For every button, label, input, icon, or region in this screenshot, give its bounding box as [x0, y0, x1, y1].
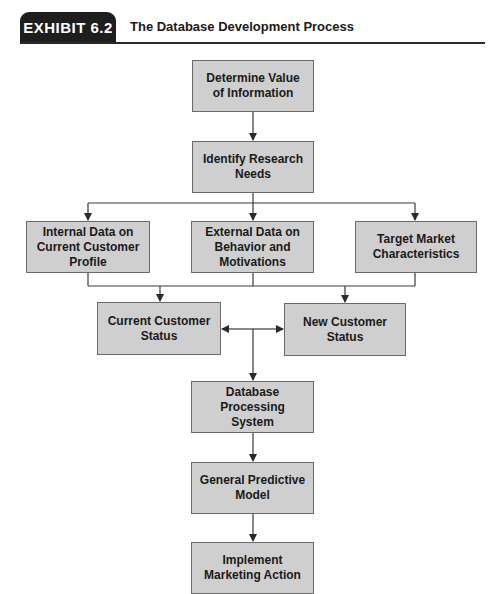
node-identify-research-needs: Identify Research Needs — [192, 141, 314, 193]
node-implement-marketing-action: Implement Marketing Action — [191, 542, 314, 594]
node-target-market: Target Market Characteristics — [355, 221, 477, 273]
node-determine-value: Determine Value of Information — [192, 60, 314, 112]
node-external-data: External Data on Behavior and Motivation… — [191, 221, 314, 273]
node-internal-data: Internal Data on Current Customer Profil… — [26, 221, 150, 273]
node-database-processing: Database Processing System — [191, 381, 314, 433]
node-general-predictive-model: General Predictive Model — [191, 462, 314, 514]
node-new-customer-status: New Customer Status — [284, 303, 406, 356]
node-current-customer-status: Current Customer Status — [97, 302, 221, 355]
